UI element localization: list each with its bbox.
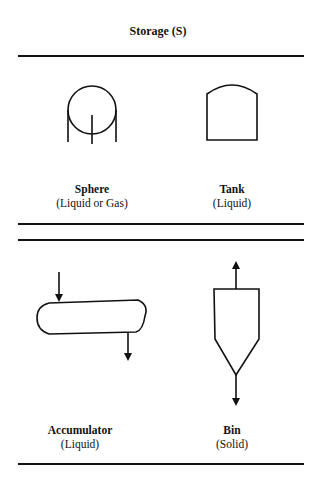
symbols-canvas (0, 0, 316, 486)
accumulator-label: Accumulator (Liquid) (15, 423, 145, 451)
accumulator-name: Accumulator (15, 423, 145, 437)
tank-label: Tank (Liquid) (167, 182, 297, 210)
sphere-label: Sphere (Liquid or Gas) (27, 182, 157, 210)
tank-name: Tank (167, 182, 297, 196)
bin-phase: (Solid) (167, 437, 297, 451)
tank-phase: (Liquid) (167, 196, 297, 210)
tank-symbol-icon (207, 85, 257, 140)
sphere-symbol-icon (68, 86, 116, 144)
bin-name: Bin (167, 423, 297, 437)
sphere-name: Sphere (27, 182, 157, 196)
bin-label: Bin (Solid) (167, 423, 297, 451)
accumulator-symbol-icon (37, 272, 146, 357)
sphere-phase: (Liquid or Gas) (27, 196, 157, 210)
bin-symbol-icon (214, 265, 259, 402)
accumulator-phase: (Liquid) (15, 437, 145, 451)
